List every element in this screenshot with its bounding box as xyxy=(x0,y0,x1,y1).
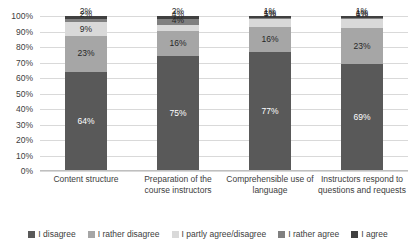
legend-label: I agree xyxy=(361,229,387,239)
bar-column[interactable]: 2%2%9%23%64% xyxy=(40,16,132,171)
bar-segment[interactable]: 77% xyxy=(249,52,291,171)
bar-column[interactable]: 2%4%4%16%75% xyxy=(132,16,224,171)
chart-legend: I disagreeI rather disagreeI partly agre… xyxy=(0,229,416,239)
y-axis-tick-label: 90% xyxy=(16,27,33,36)
legend-item[interactable]: I disagree xyxy=(28,229,75,239)
bar-segment-label: 16% xyxy=(261,35,278,44)
legend-swatch-icon xyxy=(28,231,35,238)
legend-swatch-icon xyxy=(351,231,358,238)
y-axis-tick-label: 10% xyxy=(16,151,33,160)
bar-segment-label: 6% xyxy=(356,10,368,19)
y-axis-tick-label: 50% xyxy=(16,89,33,98)
bar-stack: 1%1%5%16%77% xyxy=(249,16,291,171)
bar-segment-label: 64% xyxy=(77,117,94,126)
legend-label: I rather agree xyxy=(288,229,339,239)
y-axis-tick-label: 60% xyxy=(16,74,33,83)
bar-column[interactable]: 1%1%5%16%77% xyxy=(224,16,316,171)
bar-segment[interactable]: 9% xyxy=(65,22,107,36)
bar-column[interactable]: 1%1%6%23%69% xyxy=(316,16,408,171)
bar-segment[interactable]: 69% xyxy=(341,64,383,171)
bar-stack: 2%4%4%16%75% xyxy=(157,16,199,171)
y-axis-tick-label: 100% xyxy=(11,12,33,21)
bar-segment-label: 75% xyxy=(169,109,186,118)
bar-stack: 2%2%9%23%64% xyxy=(65,16,107,171)
legend-label: I rather disagree xyxy=(98,229,160,239)
bar-segment-label: 4% xyxy=(172,16,184,25)
legend-label: I disagree xyxy=(38,229,75,239)
legend-swatch-icon xyxy=(278,231,285,238)
legend-swatch-icon xyxy=(88,231,95,238)
gridline xyxy=(40,171,408,172)
bar-segment[interactable]: 6% xyxy=(341,19,383,28)
y-axis-tick-label: 70% xyxy=(16,58,33,67)
category-axis-label: Preparation of the course instructors xyxy=(132,174,224,218)
legend-item[interactable]: I agree xyxy=(351,229,387,239)
y-axis-tick-label: 30% xyxy=(16,120,33,129)
bar-segment[interactable]: 5% xyxy=(249,19,291,27)
bar-segment[interactable]: 75% xyxy=(157,56,199,171)
axis-baseline xyxy=(40,170,408,171)
bar-segment[interactable]: 16% xyxy=(157,31,199,56)
bar-segment-label: 23% xyxy=(77,49,94,58)
bar-segment[interactable]: 16% xyxy=(249,27,291,52)
y-axis-tick-label: 20% xyxy=(16,136,33,145)
stacked-bar-chart: 100%90%80%70%60%50%40%30%20%10%0% 2%2%9%… xyxy=(0,0,416,245)
category-axis-label: Instructors respond to questions and req… xyxy=(316,174,408,218)
y-axis: 100%90%80%70%60%50%40%30%20%10%0% xyxy=(0,16,36,171)
bar-segment[interactable]: 23% xyxy=(65,36,107,72)
legend-label: I partly agree/disagree xyxy=(182,229,267,239)
legend-swatch-icon xyxy=(172,231,179,238)
plot-area: 2%2%9%23%64%2%4%4%16%75%1%1%5%16%77%1%1%… xyxy=(40,16,408,171)
legend-item[interactable]: I rather agree xyxy=(278,229,339,239)
bar-segment-label: 69% xyxy=(353,113,370,122)
legend-item[interactable]: I rather disagree xyxy=(88,229,160,239)
category-axis: Content structurePreparation of the cour… xyxy=(40,174,408,218)
category-axis-label: Content structure xyxy=(40,174,132,218)
y-axis-tick-label: 80% xyxy=(16,43,33,52)
bar-stack: 1%1%6%23%69% xyxy=(341,16,383,171)
bar-segment-label: 16% xyxy=(169,39,186,48)
bar-segment-label: 77% xyxy=(261,107,278,116)
legend-item[interactable]: I partly agree/disagree xyxy=(172,229,267,239)
bar-segment-label: 23% xyxy=(353,42,370,51)
bar-segment-label: 9% xyxy=(80,25,92,34)
bar-segment[interactable]: 64% xyxy=(65,72,107,171)
y-axis-tick-label: 40% xyxy=(16,105,33,114)
bar-segment[interactable]: 23% xyxy=(341,28,383,64)
bar-segment-label: 2% xyxy=(80,10,92,19)
bar-group: 2%2%9%23%64%2%4%4%16%75%1%1%5%16%77%1%1%… xyxy=(40,16,408,171)
bar-segment-label: 5% xyxy=(264,10,276,19)
category-axis-label: Comprehensible use of language xyxy=(224,174,316,218)
y-axis-tick-label: 0% xyxy=(21,167,33,176)
